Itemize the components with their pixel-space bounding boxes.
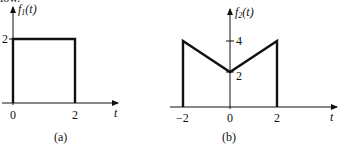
x-label-a: t	[114, 106, 118, 120]
x-tick-b-neg2: −2	[176, 111, 189, 125]
x-label-b: t	[330, 110, 334, 124]
figure: low. 2 0 2 t f1(t) (a) 4 2 −2 0 2 t f2(t…	[0, 0, 341, 147]
y-label-a: f1(t)	[18, 2, 37, 17]
x-tick-b-2: 2	[274, 111, 280, 125]
y-tick-b-2: 2	[236, 69, 242, 83]
y-tick-a-2: 2	[2, 32, 8, 46]
panel-label-b: (b)	[222, 130, 236, 144]
y-tick-b-4: 4	[236, 34, 242, 48]
signal-f1	[13, 39, 75, 103]
x-tick-b-0: 0	[227, 111, 233, 125]
y-label-b: f2(t)	[235, 5, 254, 20]
panel-label-a: (a)	[54, 130, 67, 144]
chart-a: 2 0 2 t f1(t) (a)	[2, 2, 118, 144]
x-tick-a-2: 2	[72, 108, 78, 122]
x-tick-a-0: 0	[10, 108, 16, 122]
chart-b: 4 2 −2 0 2 t f2(t) (b)	[170, 5, 337, 144]
